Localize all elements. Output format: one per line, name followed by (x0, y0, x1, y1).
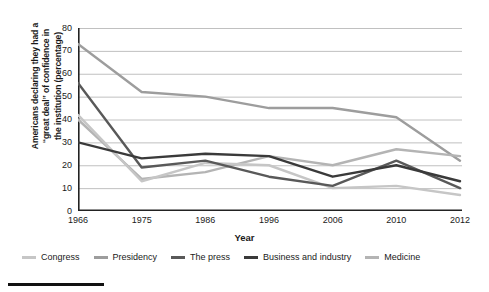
y-tick-label: 80 (50, 24, 72, 33)
y-axis-title-line-1: Americans declaring they had a (30, 23, 40, 149)
x-tick-label: 1986 (182, 216, 228, 225)
legend-swatch-icon (171, 256, 185, 259)
y-tick-label: 10 (50, 184, 72, 193)
y-tick-label: 70 (50, 46, 72, 55)
legend-label: Medicine (384, 252, 420, 262)
legend-label: Congress (41, 252, 80, 262)
y-tick-label: 50 (50, 92, 72, 101)
legend-label: Business and industry (263, 252, 351, 262)
chart-legend: CongressPresidencyThe pressBusiness and … (22, 252, 472, 262)
x-tick-label: 2006 (310, 216, 356, 225)
series-line (78, 120, 460, 179)
legend-swatch-icon (94, 256, 108, 259)
legend-item-business-and-industry[interactable]: Business and industry (244, 252, 351, 262)
y-tick-label: 60 (50, 69, 72, 78)
legend-item-presidency[interactable]: Presidency (94, 252, 158, 262)
y-tick-label: 20 (50, 161, 72, 170)
legend-label: Presidency (113, 252, 158, 262)
footer-rule (8, 283, 104, 286)
plot-area (78, 28, 462, 211)
y-tick-label: 30 (50, 138, 72, 147)
legend-label: The press (190, 252, 230, 262)
x-axis-title: Year (0, 232, 489, 243)
legend-item-the-press[interactable]: The press (171, 252, 230, 262)
legend-swatch-icon (244, 256, 258, 259)
x-tick-label: 1966 (55, 216, 101, 225)
legend-swatch-icon (22, 256, 36, 259)
x-tick-label: 2010 (373, 216, 419, 225)
x-tick-label: 1996 (246, 216, 292, 225)
y-tick-label: 40 (50, 115, 72, 124)
legend-swatch-icon (365, 256, 379, 259)
line-chart-svg (78, 28, 462, 211)
legend-item-medicine[interactable]: Medicine (365, 252, 420, 262)
x-tick-label: 1975 (119, 216, 165, 225)
chart-figure: Americans declaring they had a “great de… (0, 0, 489, 292)
legend-item-congress[interactable]: Congress (22, 252, 80, 262)
x-tick-label: 2012 (437, 216, 483, 225)
